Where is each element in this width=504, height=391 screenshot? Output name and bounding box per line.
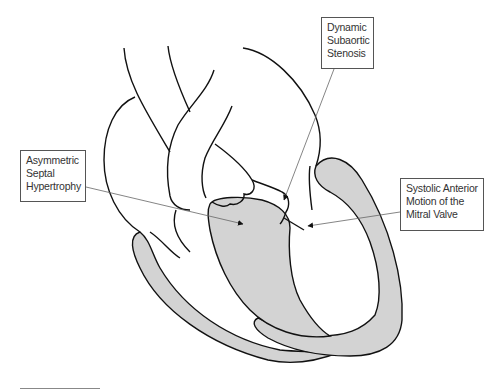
tricuspid-leaflet: [174, 210, 190, 252]
hypertrophied-septum: [208, 197, 330, 336]
footnote-rule: [20, 388, 100, 389]
mitral-posterior-leaflet: [309, 166, 312, 210]
right-atrium-outline: [104, 97, 140, 232]
label-line: Motion of the: [406, 195, 478, 208]
label-dynamic-subaortic-stenosis: Dynamic Subaortic Stenosis: [321, 17, 374, 69]
tricuspid-chord: [150, 232, 180, 258]
label-line: Systolic Anterior: [406, 182, 478, 195]
label-line: Hypertrophy: [26, 180, 80, 193]
label-line: Subaortic: [327, 34, 368, 47]
aorta-root: [202, 106, 232, 198]
label-systolic-anterior-motion: Systolic Anterior Motion of the Mitral V…: [400, 178, 484, 231]
label-line: Stenosis: [327, 47, 368, 60]
pulmonary-artery-left: [168, 46, 190, 112]
superior-vena-cava: [124, 48, 170, 152]
label-line: Asymmetric: [26, 154, 80, 167]
label-line: Septal: [26, 167, 80, 180]
label-line: Mitral Valve: [406, 208, 478, 221]
leader-systolic-anterior-motion: [308, 212, 400, 226]
pulmonary-artery-right: [168, 70, 214, 210]
label-line: Dynamic: [327, 21, 368, 34]
label-asymmetric-septal-hypertrophy: Asymmetric Septal Hypertrophy: [20, 150, 86, 202]
left-atrium-outline: [243, 48, 320, 166]
